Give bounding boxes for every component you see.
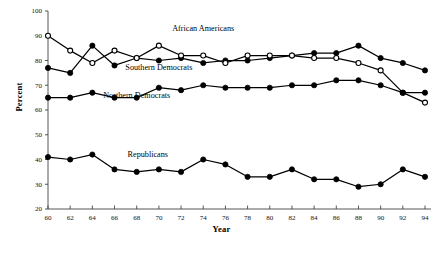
x-axis-tick-label: 78 — [244, 214, 252, 222]
data-point-open — [201, 53, 206, 58]
data-point-filled — [400, 90, 405, 95]
data-point-open — [312, 56, 317, 61]
data-point-filled — [201, 157, 206, 162]
x-axis-tick-label: 88 — [355, 214, 363, 222]
data-point-filled — [245, 174, 250, 179]
series-label-northern-democrats: Northern Democrats — [103, 91, 170, 100]
x-axis-tick-label: 80 — [266, 214, 274, 222]
x-axis-tick-label: 60 — [45, 214, 53, 222]
chart-figure: Percent Year 2030405060708090100 6062646… — [0, 0, 443, 261]
data-point-filled — [68, 95, 73, 100]
y-axis-tick-label: 30 — [35, 181, 43, 189]
data-point-open — [112, 48, 117, 53]
data-point-filled — [289, 167, 294, 172]
data-point-filled — [90, 90, 95, 95]
data-point-open — [179, 53, 184, 58]
x-axis-tick-label: 68 — [133, 214, 141, 222]
data-point-filled — [45, 95, 50, 100]
x-axis-tick-label: 64 — [89, 214, 97, 222]
y-axis-tick-label: 90 — [35, 32, 43, 40]
data-point-open — [134, 56, 139, 61]
data-point-filled — [223, 162, 228, 167]
data-point-filled — [223, 85, 228, 90]
data-point-filled — [156, 167, 161, 172]
x-axis-tick-label: 72 — [178, 214, 186, 222]
data-point-open — [289, 53, 294, 58]
data-point-filled — [267, 174, 272, 179]
data-point-open — [68, 48, 73, 53]
data-point-open — [156, 43, 161, 48]
data-point-filled — [201, 83, 206, 88]
data-point-filled — [289, 83, 294, 88]
x-axis: 606264666870727476788082848688909294 — [45, 206, 432, 223]
data-point-filled — [356, 184, 361, 189]
series-line — [48, 155, 425, 187]
series-label-african-americans: African Americans — [172, 24, 234, 33]
y-axis-tick-label: 50 — [35, 131, 43, 139]
line-chart-plot: 2030405060708090100 60626466687072747678… — [0, 0, 443, 261]
data-point-filled — [400, 167, 405, 172]
data-point-open — [356, 60, 361, 65]
data-point-filled — [334, 177, 339, 182]
data-point-filled — [245, 58, 250, 63]
series-label-republicans: Republicans — [128, 150, 168, 159]
data-point-filled — [400, 60, 405, 65]
data-point-open — [378, 68, 383, 73]
x-axis-tick-label: 86 — [333, 214, 341, 222]
data-point-filled — [422, 90, 427, 95]
data-point-filled — [112, 167, 117, 172]
data-point-open — [223, 60, 228, 65]
data-point-filled — [312, 83, 317, 88]
data-point-filled — [334, 50, 339, 55]
y-axis-tick-label: 80 — [35, 57, 43, 65]
data-point-filled — [134, 169, 139, 174]
x-axis-tick-label: 74 — [200, 214, 208, 222]
data-point-filled — [178, 169, 183, 174]
y-axis-tick-label: 40 — [35, 156, 43, 164]
data-point-filled — [312, 177, 317, 182]
data-point-filled — [245, 85, 250, 90]
data-point-filled — [90, 152, 95, 157]
x-axis-tick-label: 66 — [111, 214, 119, 222]
x-axis-tick-label: 76 — [222, 214, 230, 222]
data-point-filled — [356, 43, 361, 48]
data-point-filled — [68, 70, 73, 75]
data-series-group — [45, 33, 427, 189]
data-point-filled — [112, 63, 117, 68]
data-point-filled — [378, 83, 383, 88]
data-point-filled — [422, 68, 427, 73]
data-point-open — [423, 100, 428, 105]
data-point-filled — [201, 60, 206, 65]
data-point-filled — [156, 58, 161, 63]
x-axis-tick-label: 92 — [399, 214, 407, 222]
series-annotations-group: African AmericansSouthern DemocratsNorth… — [103, 24, 234, 159]
y-axis-tick-label: 70 — [35, 82, 43, 90]
x-axis-tick-label: 82 — [288, 214, 296, 222]
data-point-open — [90, 60, 95, 65]
y-axis-tick-label: 100 — [32, 7, 43, 15]
data-point-filled — [312, 50, 317, 55]
data-point-open — [334, 56, 339, 61]
x-axis-tick-label: 90 — [377, 214, 385, 222]
data-point-open — [245, 53, 250, 58]
x-axis-tick-label: 84 — [311, 214, 319, 222]
y-axis-tick-label: 60 — [35, 106, 43, 114]
data-point-filled — [178, 88, 183, 93]
x-axis-tick-label: 62 — [67, 214, 75, 222]
data-point-filled — [334, 78, 339, 83]
y-axis-tick-label: 20 — [35, 205, 43, 213]
data-point-filled — [45, 65, 50, 70]
data-point-filled — [68, 157, 73, 162]
data-point-filled — [267, 85, 272, 90]
data-point-filled — [156, 85, 161, 90]
data-point-open — [267, 53, 272, 58]
data-point-filled — [378, 55, 383, 60]
data-point-filled — [378, 182, 383, 187]
series-label-southern-democrats: Southern Democrats — [125, 63, 192, 72]
data-point-filled — [45, 154, 50, 159]
y-axis: 2030405060708090100 — [32, 7, 49, 213]
x-axis-tick-label: 94 — [422, 214, 430, 222]
data-point-filled — [422, 174, 427, 179]
data-point-filled — [356, 78, 361, 83]
data-point-open — [46, 33, 51, 38]
